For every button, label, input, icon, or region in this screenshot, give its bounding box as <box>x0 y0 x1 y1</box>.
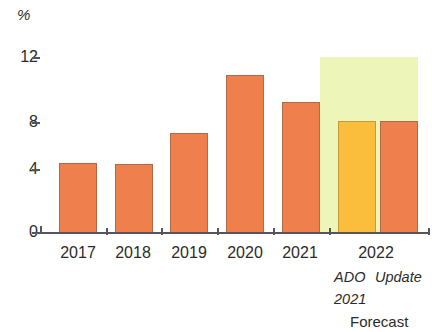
x-label-2020: 2020 <box>227 244 263 262</box>
x-tick-mark-2 <box>161 228 163 235</box>
x-tick-mark-1 <box>106 228 108 235</box>
x-axis-baseline <box>40 232 430 234</box>
x-label-2019: 2019 <box>171 244 207 262</box>
forecast-sub-label-2021: 2021 <box>334 291 366 307</box>
x-label-2021: 2021 <box>282 244 318 262</box>
bar-2022-ado-2021 <box>338 121 376 233</box>
bar-chart: % 12 8 4 0 2017 2018 2019 2020 20 <box>0 0 432 332</box>
x-tick-mark-5 <box>329 228 331 235</box>
bar-2020 <box>226 75 264 233</box>
bar-2022-update <box>380 121 418 233</box>
x-label-2022: 2022 <box>358 244 394 262</box>
plot-area <box>0 0 432 332</box>
x-tick-mark-3 <box>217 228 219 235</box>
bar-2017 <box>59 163 97 233</box>
forecast-caption: Forecast <box>350 313 408 330</box>
x-tick-mark-6 <box>428 228 430 235</box>
bar-2018 <box>115 164 153 233</box>
x-label-2018: 2018 <box>115 244 151 262</box>
x-label-2017: 2017 <box>60 244 96 262</box>
bar-2019 <box>170 133 208 233</box>
bar-2021 <box>282 102 320 233</box>
x-axis-origin-cap <box>40 226 42 234</box>
forecast-sub-label-ado: ADO <box>334 269 365 285</box>
x-tick-mark-4 <box>273 228 275 235</box>
forecast-sub-label-update: Update <box>375 269 422 285</box>
